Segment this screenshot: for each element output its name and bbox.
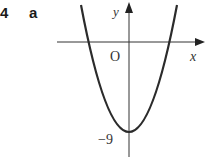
origin-label: O [110, 49, 120, 64]
x-axis-arrow-icon [195, 38, 205, 46]
y-axis-arrow-icon [125, 2, 133, 13]
parabola-graph: y x O −9 [0, 0, 205, 157]
y-intercept-label: −9 [98, 132, 113, 147]
y-axis-label: y [111, 4, 119, 19]
x-axis-label: x [189, 49, 197, 64]
